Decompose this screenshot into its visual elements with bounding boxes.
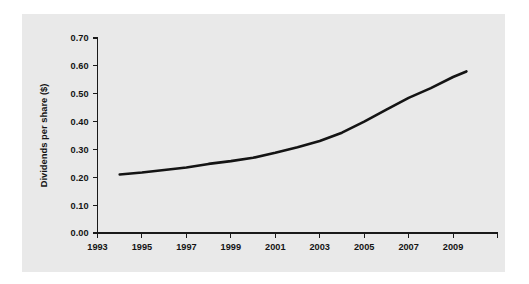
y-axis-title-group: Dividends per share ($) [38,84,49,188]
y-axis-tick-label: 0.30 [71,145,89,155]
y-axis-tick-label: 0.40 [71,117,89,127]
x-axis-tick-label: 1999 [221,242,241,252]
y-axis-tick-label: 0.10 [71,201,89,211]
figure-root: 0.000.100.200.300.400.500.600.70 1993199… [0,0,529,284]
y-axis-tick-label: 0.60 [71,61,89,71]
x-axis-tick-label: 2005 [354,242,374,252]
x-axis-tick-label: 1997 [176,242,196,252]
y-axis-title: Dividends per share ($) [38,84,49,188]
data-series-group [120,71,467,174]
line-chart: 0.000.100.200.300.400.500.600.70 1993199… [0,0,529,284]
x-axis-tick-label: 2007 [398,242,418,252]
y-axis: 0.000.100.200.300.400.500.600.70 [71,33,98,238]
x-axis-tick-label: 1993 [87,242,107,252]
data-series-line [120,71,467,174]
y-axis-tick-label: 0.50 [71,89,89,99]
x-axis: 199319951997199920012003200520072009 [87,233,497,252]
x-axis-tick-label: 2001 [265,242,285,252]
x-axis-tick-label: 2009 [443,242,463,252]
y-axis-tick-label: 0.20 [71,173,89,183]
y-axis-tick-label: 0.00 [71,228,89,238]
y-axis-tick-label: 0.70 [71,33,89,43]
x-axis-tick-label: 2003 [309,242,329,252]
x-axis-tick-label: 1995 [132,242,152,252]
